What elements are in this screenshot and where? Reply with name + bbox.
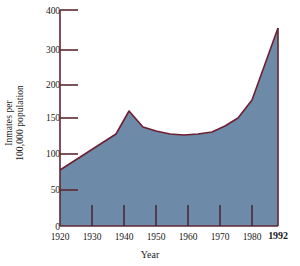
area-series-fill [60,28,278,226]
plot-area [0,0,300,266]
chart-container: Inmates per 100,000 population 400 300 2… [0,0,300,266]
x-tick-label-1992: 1992 [258,231,298,241]
x-axis-title: Year [0,249,300,260]
